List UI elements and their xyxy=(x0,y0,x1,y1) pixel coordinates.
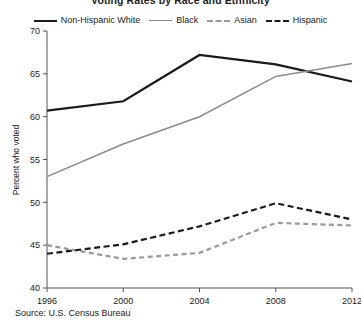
svg-text:1996: 1996 xyxy=(37,296,57,306)
series-line-non-hispanic-white xyxy=(47,55,352,111)
y-axis-title: Percent who voted xyxy=(11,100,21,220)
chart-root: Voting Rates by Race and Ethnicity Non-H… xyxy=(0,0,361,328)
series-lines xyxy=(47,55,352,259)
series-line-hispanic xyxy=(47,203,352,254)
svg-text:70: 70 xyxy=(30,26,40,36)
svg-text:40: 40 xyxy=(30,283,40,293)
series-line-asian xyxy=(47,223,352,259)
chart-svg: 4045505560657019962000200420082012 xyxy=(0,0,361,328)
tick-labels: 4045505560657019962000200420082012 xyxy=(30,26,361,306)
svg-text:50: 50 xyxy=(30,198,40,208)
svg-text:2004: 2004 xyxy=(189,296,209,306)
series-line-black xyxy=(47,64,352,177)
plot-area: 4045505560657019962000200420082012 Perce… xyxy=(0,0,361,328)
svg-text:60: 60 xyxy=(30,112,40,122)
svg-text:2008: 2008 xyxy=(266,296,286,306)
svg-text:2012: 2012 xyxy=(342,296,361,306)
svg-text:2000: 2000 xyxy=(113,296,133,306)
svg-text:45: 45 xyxy=(30,240,40,250)
svg-text:65: 65 xyxy=(30,69,40,79)
svg-text:55: 55 xyxy=(30,155,40,165)
source-note: Source: U.S. Census Bureau xyxy=(15,308,131,318)
